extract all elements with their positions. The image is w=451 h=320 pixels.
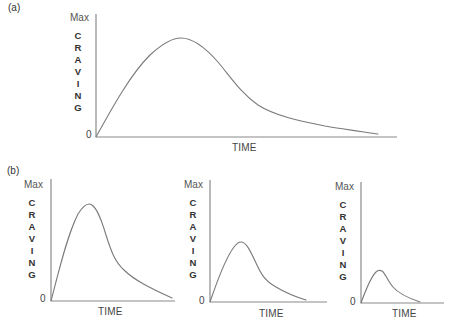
craving-curves-figure (0, 0, 451, 320)
panel-b1-craving-curve (51, 204, 172, 301)
panel-b3-craving-curve (361, 270, 420, 303)
panel-a-craving-curve (96, 38, 378, 137)
panel-b2-craving-curve (210, 242, 306, 302)
